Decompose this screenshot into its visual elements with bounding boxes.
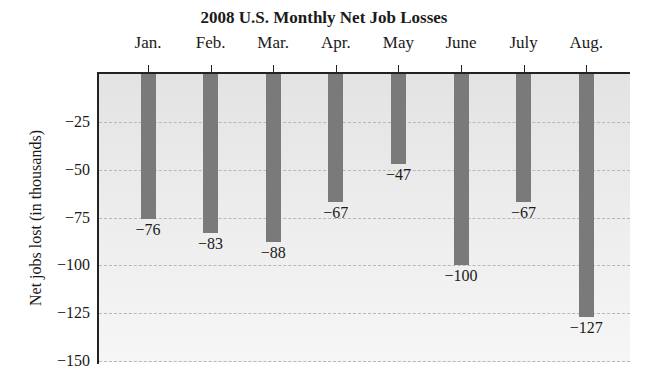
chart-title: 2008 U.S. Monthly Net Job Losses: [0, 8, 648, 28]
x-tick-label: May: [383, 33, 414, 53]
x-axis-line: [98, 72, 630, 74]
bar-apr: [328, 74, 343, 202]
x-tick: [211, 65, 212, 73]
bar-june: [454, 74, 469, 265]
x-tick-label: Feb.: [196, 33, 226, 53]
gridline: [99, 265, 630, 266]
data-label: −83: [198, 235, 223, 253]
bar-feb: [203, 74, 218, 233]
bar-july: [516, 74, 531, 202]
bar-mar: [266, 74, 281, 242]
data-label: −67: [511, 204, 536, 222]
y-axis-title: Net jobs lost (in thousands): [27, 130, 45, 306]
bar-may: [391, 74, 406, 164]
bar-aug: [579, 74, 594, 317]
y-tick-label: −100: [57, 256, 90, 274]
x-tick: [336, 65, 337, 73]
x-tick: [586, 65, 587, 73]
x-tick-label: Jan.: [135, 33, 162, 53]
bar-jan: [141, 74, 156, 219]
x-tick-label: Mar.: [257, 33, 289, 53]
gridline: [99, 361, 630, 362]
data-label: −67: [323, 204, 348, 222]
x-tick-label: Apr.: [321, 33, 351, 53]
gridline: [99, 313, 630, 314]
y-tick-label: −50: [65, 161, 90, 179]
x-tick-label: July: [509, 33, 537, 53]
x-tick-label: June: [445, 33, 476, 53]
x-tick: [398, 65, 399, 73]
gridline: [99, 218, 630, 219]
y-tick-label: −75: [65, 209, 90, 227]
x-tick: [273, 65, 274, 73]
data-label: −100: [444, 267, 477, 285]
x-tick: [148, 65, 149, 73]
y-axis-line: [97, 72, 99, 364]
x-tick: [524, 65, 525, 73]
y-tick-label: −25: [65, 113, 90, 131]
data-label: −88: [261, 244, 286, 262]
data-label: −47: [386, 166, 411, 184]
gridline: [99, 122, 630, 123]
y-tick-label: −125: [57, 304, 90, 322]
data-label: −127: [570, 319, 603, 337]
data-label: −76: [135, 221, 160, 239]
x-tick: [461, 65, 462, 73]
y-tick-label: −150: [57, 352, 90, 370]
gridline: [99, 170, 630, 171]
x-tick-label: Aug.: [569, 33, 603, 53]
